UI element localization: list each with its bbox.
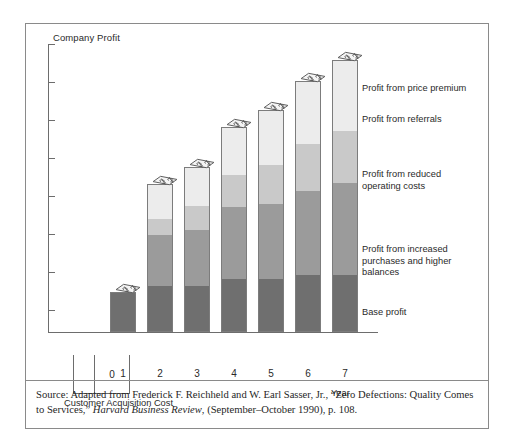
bar-segment	[185, 168, 209, 206]
x-axis-label-year-6: 6	[295, 368, 321, 379]
bar-segment	[333, 183, 357, 275]
bar-segment	[259, 111, 283, 165]
bar-segment	[296, 82, 320, 144]
chart-panel: Company Profit Profit from price premium…	[26, 24, 488, 380]
legend-label-4: Profit from increased purchases and high…	[362, 244, 488, 279]
bar-stack	[221, 127, 247, 332]
bar-series-group	[48, 44, 378, 332]
bar-segment	[148, 185, 172, 219]
x-axis-label-year-7: 7	[332, 368, 358, 379]
x-axis-label-year-2: 2	[147, 368, 173, 379]
bar-segment	[259, 279, 283, 331]
x-axis-line	[48, 332, 378, 333]
bar-segment	[222, 128, 246, 175]
bar-segment	[333, 61, 357, 131]
bar-segment	[185, 206, 209, 230]
x-axis-label-year-1: 1	[110, 368, 136, 379]
bar-segment	[185, 230, 209, 286]
bar-segment	[148, 235, 172, 285]
bar-stack	[295, 81, 321, 332]
source-publication: Harvard Business Review	[93, 404, 202, 415]
panel-divider	[26, 380, 488, 381]
legend-label-2: Profit from referrals	[362, 114, 442, 126]
bar-stack	[110, 292, 136, 332]
bar-segment	[296, 275, 320, 331]
source-suffix: , (September–October 1990), p. 108.	[202, 404, 357, 415]
legend-label-5: Base profit	[362, 307, 406, 319]
figure-frame: Company Profit Profit from price premium…	[25, 23, 489, 429]
bar-stack	[258, 110, 284, 332]
bar-segment	[222, 175, 246, 207]
bar-segment	[222, 207, 246, 280]
bar-segment	[296, 144, 320, 190]
bar-segment	[259, 165, 283, 204]
legend-label-3: Profit from reduced operating costs	[362, 169, 441, 192]
bar-segment	[148, 219, 172, 235]
bar-segment	[333, 131, 357, 183]
x-axis-label-year-4: 4	[221, 368, 247, 379]
bar-segment	[333, 275, 357, 331]
bar-segment	[222, 279, 246, 331]
bar-stack	[184, 167, 210, 332]
bar-stack	[147, 184, 173, 332]
x-axis-label-year-5: 5	[258, 368, 284, 379]
bar-stack	[332, 60, 358, 332]
source-note: Source: Adapted from Frederick F. Reichh…	[36, 388, 478, 417]
legend-label-1: Profit from price premium	[362, 83, 466, 95]
bar-segment	[185, 286, 209, 331]
bar-segment	[148, 286, 172, 331]
bar-segment	[111, 293, 135, 331]
x-axis-label-year-3: 3	[184, 368, 210, 379]
y-axis-title: Company Profit	[53, 32, 120, 43]
plot-area	[48, 44, 378, 332]
bar-segment	[259, 204, 283, 279]
bar-segment	[296, 191, 320, 276]
